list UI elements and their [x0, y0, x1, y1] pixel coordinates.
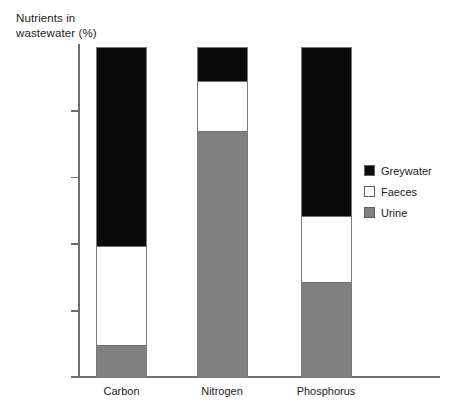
legend-item-urine[interactable]: Urine: [364, 202, 450, 223]
x-axis-label-phosphorus: Phosphorus: [266, 385, 386, 397]
bar-carbon-segment-urine: [97, 345, 146, 379]
y-tick-mark-60: [71, 177, 78, 178]
bar-nitrogen: [197, 47, 248, 378]
bar-phosphorus-segment-urine: [302, 282, 351, 379]
legend-item-greywater[interactable]: Greywater: [364, 160, 450, 181]
legend-swatch-urine-icon: [364, 207, 375, 218]
bar-nitrogen-segment-urine: [198, 131, 247, 379]
bar-nitrogen-segment-faeces: [198, 81, 247, 131]
bar-carbon-segment-greywater: [97, 48, 146, 246]
bar-phosphorus: [301, 47, 352, 378]
y-tick-mark-0: [71, 376, 78, 377]
stacked-bar-chart: Nutrients inwastewater (%) 0 20 40 60 80: [0, 0, 450, 416]
chart-legend: Greywater Faeces Urine: [364, 160, 450, 223]
y-tick-mark-80: [71, 110, 78, 111]
y-tick-mark-20: [71, 310, 78, 311]
y-axis-line: [78, 44, 80, 378]
y-tick-mark-40: [71, 243, 78, 244]
x-axis-label-nitrogen: Nitrogen: [162, 385, 282, 397]
legend-swatch-greywater-icon: [364, 165, 375, 176]
bar-carbon-segment-faeces: [97, 246, 146, 345]
legend-swatch-faeces-icon: [364, 186, 375, 197]
bar-nitrogen-segment-greywater: [198, 48, 247, 82]
bar-phosphorus-segment-faeces: [302, 216, 351, 282]
legend-item-faeces[interactable]: Faeces: [364, 181, 450, 202]
legend-label-urine: Urine: [381, 207, 407, 219]
legend-label-faeces: Faeces: [381, 186, 417, 198]
bar-carbon: [96, 47, 147, 378]
legend-label-greywater: Greywater: [381, 165, 432, 177]
bar-phosphorus-segment-greywater: [302, 48, 351, 216]
